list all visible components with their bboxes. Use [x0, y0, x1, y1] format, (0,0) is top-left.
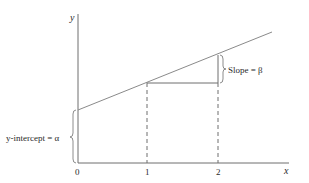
x-tick-1: 1	[145, 167, 150, 177]
y-axis-label: y	[69, 12, 75, 23]
intercept-label: y-intercept = α	[6, 133, 60, 143]
x-tick-2: 2	[216, 167, 221, 177]
intercept-brace	[70, 110, 76, 163]
x-axis-label: x	[283, 165, 289, 176]
slope-label: Slope = β	[228, 65, 263, 75]
slope-brace	[220, 55, 226, 83]
x-tick-0: 0	[75, 167, 80, 177]
regression-line-diagram: y x 0 1 2 Slope = β y-intercept = α	[0, 0, 309, 183]
